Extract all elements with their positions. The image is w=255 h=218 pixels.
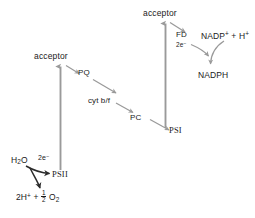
- label-fd: FD: [176, 31, 187, 39]
- label-water: H2O: [11, 156, 28, 166]
- water-to-psii-arrow: [26, 166, 50, 174]
- label-pq: PQ: [78, 69, 90, 77]
- nadp-to-nadph-arrow: [211, 41, 225, 64]
- label-acceptor-psi: acceptor: [143, 9, 177, 18]
- pq-to-cytbf-arrow: [93, 80, 116, 94]
- fd-to-nadph-arrow: [191, 45, 209, 57]
- cytbf-to-pc-arrow: [116, 103, 133, 113]
- label-acceptor-psii: acceptor: [34, 52, 68, 61]
- label-nadph: NADPH: [198, 71, 228, 80]
- label-pc: PC: [130, 114, 141, 122]
- label-cyt-bf: cyt b/f: [88, 97, 110, 105]
- label-psi: PSI: [169, 126, 182, 135]
- label-electrons-psii: 2e−: [38, 154, 49, 161]
- diagram-canvas: acceptor PQ cyt b/f PC PSI acceptor FD 2…: [0, 0, 255, 218]
- label-oxygen-products: 2H+ + 12 O2: [16, 190, 59, 204]
- label-nadp-plus-h: NADP+ + H+: [201, 31, 249, 40]
- label-psii: PSII: [52, 170, 68, 179]
- label-electrons-fd: 2e−: [176, 42, 186, 49]
